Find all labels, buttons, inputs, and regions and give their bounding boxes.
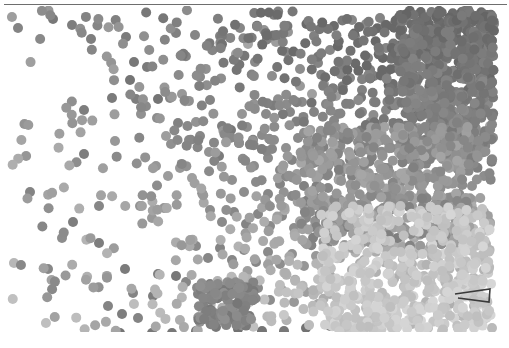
scatter-figure [0, 0, 509, 348]
top-rule-divider [4, 4, 507, 5]
plot-area [0, 6, 509, 332]
scatter-plot-canvas [0, 6, 509, 332]
